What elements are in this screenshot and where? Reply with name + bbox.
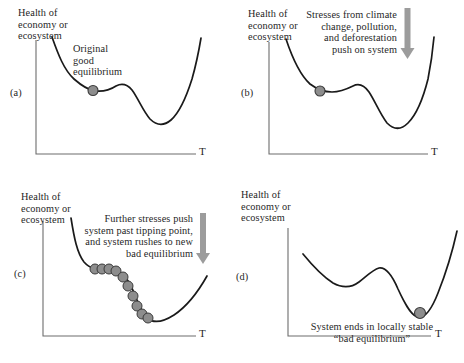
panel-a: Health of economy or ecosystem (a) Origi… — [0, 0, 232, 182]
annotation-a: Original good equilibrium — [73, 43, 122, 78]
panel-letter-d: (d) — [236, 271, 248, 283]
x-axis-label-d: T — [435, 328, 442, 340]
ball-bad-equilibrium — [415, 308, 426, 319]
panel-letter-b: (b) — [241, 87, 253, 99]
stress-arrow-icon — [401, 8, 415, 59]
x-axis-label-c: T — [199, 328, 206, 340]
ball-good-equilibrium — [88, 86, 98, 96]
panel-letter-a: (a) — [10, 87, 22, 99]
annotation-c: Further stresses push system past tippin… — [48, 213, 193, 259]
ball-good-equilibrium — [315, 86, 325, 96]
x-axis-label-b: T — [431, 146, 438, 158]
y-axis-label-d: Health of economy or ecosystem — [241, 189, 291, 224]
potential-curve-d — [303, 231, 457, 317]
annotation-b: Stresses from climate change, pollution,… — [287, 9, 397, 55]
panel-b: Health of economy or ecosystem (b) Stres… — [232, 0, 464, 182]
annotation-d: System ends in locally stable “bad equil… — [292, 321, 452, 344]
panel-letter-c: (c) — [14, 268, 26, 280]
panel-c: Health of economy or ecosystem (c) Furth… — [0, 181, 232, 363]
ball-trail — [90, 264, 153, 323]
y-axis-label-a: Health of economy or ecosystem — [18, 7, 68, 42]
stress-arrow-icon — [196, 213, 210, 264]
four-panel-figure: Health of economy or ecosystem (a) Origi… — [0, 0, 464, 363]
panel-d: Health of economy or ecosystem (d) Syste… — [232, 181, 464, 363]
x-axis-label-a: T — [199, 146, 206, 158]
